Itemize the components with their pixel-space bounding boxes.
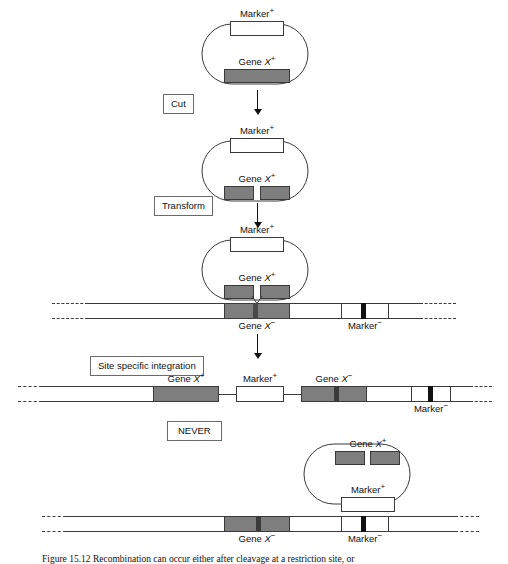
chromosome-integrated-markerplus-label: Marker+ [243,373,277,384]
chromosome-never-marker-label: Marker− [348,533,382,544]
chromosome-integrated-markerminus-label: Marker− [414,403,448,414]
plasmid-pairing-marker-label: Marker+ [240,224,274,235]
plasmid-cut-marker-label: Marker+ [240,125,274,136]
chromosome-recipient-geneX-mutation-band [253,303,258,319]
chromosome-integrated-dash-left [18,386,42,387]
plasmid-cut-marker-box [230,138,284,153]
plasmid-pairing-marker-box [230,237,284,252]
plasmid-never-gene-box-right [370,451,400,465]
step-never: NEVER [167,421,222,441]
chromosome-integrated-markerminus-mutation-band [428,386,433,402]
plasmid-never-marker-label: Marker+ [351,484,385,495]
plasmid-intact-marker-box [230,21,284,36]
chromosome-recipient-dash-left [52,303,88,304]
chromosome-never-marker-mutation-band [361,516,366,532]
chromosome-integrated-dash-right [470,386,492,387]
chromosome-integrated-geneXminus-mutation-band [334,386,339,402]
plasmid-never-marker-box [341,497,395,512]
plasmid-never-gene-label: Gene X+ [350,438,387,449]
connector-geneXplus-to-marker [219,394,236,395]
plasmid-never-gene-box-left [335,451,365,465]
plasmid-cut-gene-label: Gene X+ [239,173,276,184]
plasmid-intact-marker-label: Marker+ [240,8,274,19]
chromosome-never-dash-right [455,516,479,517]
chromosome-never-dash-right2 [455,531,479,532]
chromosome-recipient-marker-label: Marker− [348,320,382,331]
connector-marker-to-geneXminus [284,394,301,395]
chromosome-never-dash-left [42,516,66,517]
step-transform: Transform [154,196,213,216]
plasmid-intact-gene-label: Gene X+ [239,56,276,67]
chromosome-integrated-geneXminus-label: Gene X− [316,373,353,384]
chromosome-integrated-geneXplus-box [153,386,219,402]
chromosome-never-dash-left2 [42,531,66,532]
plasmid-intact-gene-box [224,69,290,83]
figure-caption: Figure 15.12 Recombination can occur eit… [42,553,472,564]
chromosome-never-geneX-mutation-band [256,516,261,532]
chromosome-recipient-dash-right [420,303,456,304]
chromosome-integrated-dash-right2 [470,401,492,402]
chromosome-integrated-markerplus-box [236,386,284,402]
chromosome-integrated-geneXplus-label: Gene X+ [168,373,205,384]
plasmid-cut-gene-box-left [224,186,254,200]
plasmid-pairing-gene-label: Gene X+ [239,272,276,283]
step-cut: Cut [163,94,194,114]
plasmid-cut-gene-box-right [260,186,290,200]
chromosome-recipient-geneX-label: Gene X− [239,320,276,331]
chromosome-recipient-dash-left2 [52,318,88,319]
chromosome-recipient-dash-right2 [420,318,456,319]
figure-panel: Marker+ Gene X+ Cut Marker+ Gene X+ Tran… [0,0,508,564]
chromosome-recipient-marker-mutation-band [361,303,366,319]
chromosome-integrated-dash-left2 [18,401,42,402]
chromosome-never-geneX-label: Gene X− [239,533,276,544]
